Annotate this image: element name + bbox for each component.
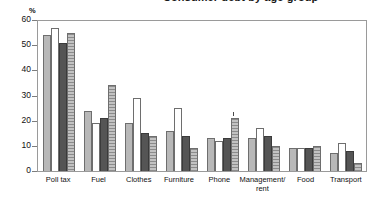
bar	[231, 118, 239, 171]
x-axis-category-label: Poll tax	[38, 175, 78, 193]
bar	[289, 148, 297, 171]
bar	[338, 143, 346, 171]
stray-mark-artifact	[233, 112, 234, 116]
bar	[59, 43, 67, 171]
chart-title: Consumer debt by age group	[163, 0, 318, 3]
x-axis-category-label: Furniture	[159, 175, 199, 193]
bar	[133, 98, 141, 171]
bar	[330, 153, 338, 171]
bar	[174, 108, 182, 171]
bar	[125, 123, 133, 171]
y-axis-tick-mark	[32, 121, 37, 122]
bar-group	[284, 20, 325, 171]
bar	[207, 138, 215, 171]
bar	[354, 163, 362, 171]
y-axis-tick-mark	[32, 20, 37, 21]
x-axis-category-label: Fuel	[78, 175, 118, 193]
bar	[190, 148, 198, 171]
x-axis-category-label: Phone	[199, 175, 239, 193]
y-axis-tick-label: 50	[22, 39, 31, 49]
bar-groups	[38, 20, 366, 171]
y-axis-tick-label: 20	[22, 115, 31, 125]
bar	[313, 146, 321, 171]
x-axis-category-label: Management/ rent	[239, 175, 285, 193]
bar	[51, 28, 59, 171]
bar	[166, 131, 174, 171]
bar	[215, 141, 223, 171]
bar	[272, 146, 280, 171]
bar	[346, 151, 354, 171]
y-axis-tick-mark	[32, 70, 37, 71]
bar	[223, 138, 231, 171]
bar	[305, 148, 313, 171]
x-axis-category-label: Food	[285, 175, 325, 193]
bar	[43, 35, 51, 171]
bar-group	[243, 20, 284, 171]
bar	[100, 118, 108, 171]
bar	[92, 123, 100, 171]
bar-group	[120, 20, 161, 171]
bar	[182, 136, 190, 171]
bar-group	[325, 20, 366, 171]
bar-group	[38, 20, 79, 171]
bar	[67, 33, 75, 171]
y-axis-tick-label: 0	[26, 165, 31, 175]
bar	[256, 128, 264, 171]
bar-group	[161, 20, 202, 171]
y-axis-tick-mark	[32, 45, 37, 46]
x-axis-category-label: Transport	[326, 175, 366, 193]
cropped-title-strip: Consumer debt by age group	[0, 0, 381, 5]
bar	[149, 136, 157, 171]
y-axis-tick-label: 10	[22, 140, 31, 150]
bar-chart: Consumer debt by age group % 01020304050…	[0, 0, 381, 207]
x-axis-category-label: Clothes	[119, 175, 159, 193]
y-axis-tick-label: 30	[22, 90, 31, 100]
y-axis-tick-mark	[32, 96, 37, 97]
y-axis-tick-mark	[32, 146, 37, 147]
bar	[264, 136, 272, 171]
y-axis-tick-label: 60	[22, 14, 31, 24]
bar	[84, 111, 92, 171]
bar	[297, 148, 305, 171]
bar	[108, 85, 116, 171]
bar	[141, 133, 149, 171]
bar-group	[79, 20, 120, 171]
y-axis-tick-mark	[32, 171, 37, 172]
bar-group	[202, 20, 243, 171]
y-axis-tick-label: 40	[22, 64, 31, 74]
bar	[248, 138, 256, 171]
x-axis-labels: Poll taxFuelClothesFurniturePhoneManagem…	[38, 175, 366, 193]
